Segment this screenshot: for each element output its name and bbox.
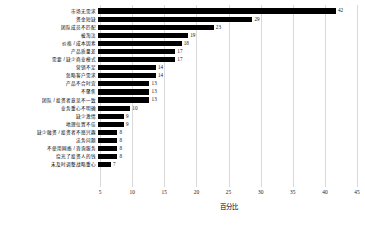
bar-row: 需要 / 缺少商业模式17 xyxy=(0,56,365,64)
bar-row: 忽略客户需求14 xyxy=(0,72,365,80)
category-label: 产品质量差 xyxy=(0,49,98,54)
bar-row: 被淘汰19 xyxy=(0,31,365,39)
bar-row: 营销不足14 xyxy=(0,64,365,72)
bar-row: 不使用网络 / 咨询服务8 xyxy=(0,145,365,153)
category-label: 缺少激情 xyxy=(0,114,98,119)
bar-row: 未及时调整战略重心7 xyxy=(0,161,365,169)
bar-value-label: 8 xyxy=(117,138,122,143)
bar-track: 23 xyxy=(98,23,365,31)
bar-value-label: 42 xyxy=(336,8,343,13)
bar-row: 团队 / 投资者意见不一致13 xyxy=(0,96,365,104)
x-tick-label: 45 xyxy=(354,189,359,195)
bar-track: 14 xyxy=(98,72,365,80)
bar-value-label: 18 xyxy=(182,41,189,46)
category-label: 烧光了投资人的钱 xyxy=(0,154,98,159)
bar-value-label: 19 xyxy=(188,33,195,38)
bar-row: 市场无需求42 xyxy=(0,7,365,15)
bar-row: 不聚焦13 xyxy=(0,88,365,96)
bar xyxy=(98,25,214,30)
bar-track: 7 xyxy=(98,161,365,169)
bar xyxy=(98,97,149,102)
bar-value-label: 8 xyxy=(117,146,122,151)
category-label: 缺少融资 / 投资者不感兴趣 xyxy=(0,130,98,135)
bar-value-label: 13 xyxy=(149,97,156,102)
bar-track: 14 xyxy=(98,64,365,72)
bar-row: 缺少激情9 xyxy=(0,112,365,120)
bar-value-label: 7 xyxy=(111,162,116,167)
category-label: 价格 / 成本因素 xyxy=(0,41,98,46)
bar xyxy=(98,138,117,143)
plot-area: 市场无需求42资金短缺29团队成员不匹配23被淘汰19价格 / 成本因素18产品… xyxy=(0,0,365,226)
bar-row: 法务问题8 xyxy=(0,137,365,145)
bar-row: 缺少融资 / 投资者不感兴趣8 xyxy=(0,128,365,136)
bar-row: 烧光了投资人的钱8 xyxy=(0,153,365,161)
category-label: 资金短缺 xyxy=(0,17,98,22)
bar-track: 29 xyxy=(98,15,365,23)
bar-row: 资金短缺29 xyxy=(0,15,365,23)
bar xyxy=(98,146,117,151)
bar-track: 8 xyxy=(98,137,365,145)
category-label: 不聚焦 xyxy=(0,89,98,94)
x-tick-label: 5 xyxy=(99,189,102,195)
bar-track: 13 xyxy=(98,88,365,96)
bar xyxy=(98,8,336,13)
bar-track: 13 xyxy=(98,96,365,104)
bar-track: 13 xyxy=(98,80,365,88)
bar xyxy=(98,154,117,159)
category-label: 不使用网络 / 咨询服务 xyxy=(0,146,98,151)
x-tick-label: 20 xyxy=(194,189,199,195)
bar-track: 8 xyxy=(98,153,365,161)
bar xyxy=(98,49,175,54)
bar-value-label: 8 xyxy=(117,154,122,159)
bar xyxy=(98,65,156,70)
bar-track: 8 xyxy=(98,145,365,153)
bar xyxy=(98,130,117,135)
category-label: 被淘汰 xyxy=(0,33,98,38)
bar-row: 价格 / 成本因素18 xyxy=(0,39,365,47)
bar xyxy=(98,89,149,94)
bar-track: 19 xyxy=(98,31,365,39)
bar-value-label: 29 xyxy=(252,17,259,22)
bar-rows: 市场无需求42资金短缺29团队成员不匹配23被淘汰19价格 / 成本因素18产品… xyxy=(0,7,365,169)
bar xyxy=(98,81,149,86)
bar-track: 9 xyxy=(98,112,365,120)
bar-value-label: 17 xyxy=(175,49,182,54)
bar-track: 9 xyxy=(98,120,365,128)
bar-value-label: 14 xyxy=(156,73,163,78)
bar xyxy=(98,114,124,119)
x-tick-label: 15 xyxy=(162,189,167,195)
bar-track: 8 xyxy=(98,128,365,136)
bar xyxy=(98,73,156,78)
bar-track: 17 xyxy=(98,56,365,64)
bar-row: 产品质量差17 xyxy=(0,47,365,55)
bar-row: 地理位置不佳9 xyxy=(0,120,365,128)
bar xyxy=(98,162,111,167)
x-tick-label: 35 xyxy=(290,189,295,195)
bar-value-label: 17 xyxy=(175,57,182,62)
bar-value-label: 13 xyxy=(149,89,156,94)
bar-chart: 市场无需求42资金短缺29团队成员不匹配23被淘汰19价格 / 成本因素18产品… xyxy=(0,0,365,226)
category-label: 业务重心不明确 xyxy=(0,106,98,111)
category-label: 产品不合时宜 xyxy=(0,81,98,86)
category-label: 法务问题 xyxy=(0,138,98,143)
bar-value-label: 9 xyxy=(124,122,129,127)
bar-value-label: 10 xyxy=(130,106,137,111)
bar-row: 团队成员不匹配23 xyxy=(0,23,365,31)
bar-track: 18 xyxy=(98,39,365,47)
bar-value-label: 13 xyxy=(149,81,156,86)
category-label: 需要 / 缺少商业模式 xyxy=(0,57,98,62)
bar-track: 10 xyxy=(98,104,365,112)
category-label: 团队 / 投资者意见不一致 xyxy=(0,98,98,103)
category-label: 未及时调整战略重心 xyxy=(0,162,98,167)
bar xyxy=(98,122,124,127)
bar-value-label: 14 xyxy=(156,65,163,70)
bar-track: 42 xyxy=(98,7,365,15)
bar-row: 业务重心不明确10 xyxy=(0,104,365,112)
x-axis-title: 百分比 xyxy=(100,203,357,211)
category-label: 市场无需求 xyxy=(0,9,98,14)
bar-track: 17 xyxy=(98,47,365,55)
bar xyxy=(98,17,252,22)
bar-row: 产品不合时宜13 xyxy=(0,80,365,88)
category-label: 忽略客户需求 xyxy=(0,73,98,78)
bar xyxy=(98,41,182,46)
